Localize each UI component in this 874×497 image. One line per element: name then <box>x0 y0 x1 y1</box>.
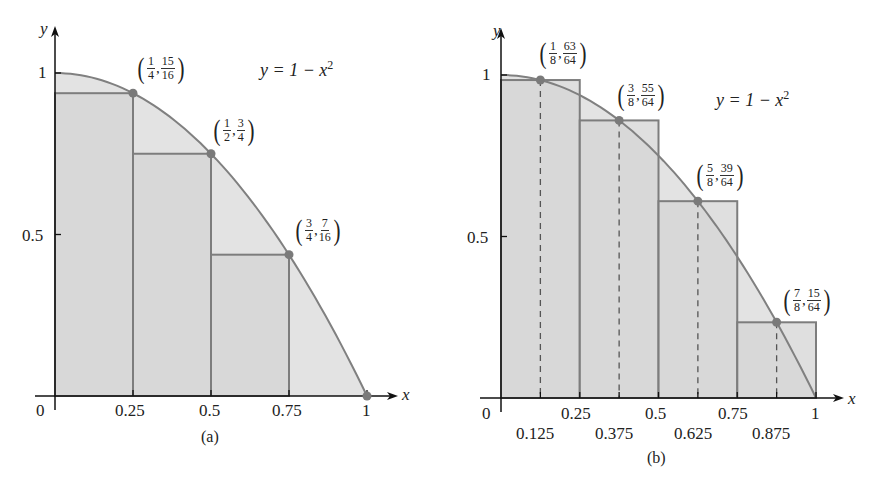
b-xtick-0.5: 0.5 <box>645 405 666 422</box>
b-xtick-1: 1 <box>811 405 820 422</box>
a-x-axis-label: x <box>402 386 410 403</box>
a-ytick-1: 1 <box>38 64 47 81</box>
b-point-label-1: (18,6364) <box>538 38 588 68</box>
a-caption: (a) <box>201 428 219 446</box>
a-xtick-0.5: 0.5 <box>199 402 220 419</box>
b-y-axis-label: y <box>493 22 501 39</box>
b-xtick-0.625: 0.625 <box>674 425 712 442</box>
a-data-point <box>207 149 216 158</box>
a-eq-lhs: y = 1 − x <box>260 60 327 80</box>
b-curve-equation: y = 1 − x2 <box>716 88 789 111</box>
a-point-label-1: (14,1516) <box>136 53 186 83</box>
a-xtick-1: 1 <box>362 402 371 419</box>
a-point-label-3: (34,716) <box>294 215 342 245</box>
a-point-label-2: (12,34) <box>212 115 256 145</box>
a-rectangle <box>55 93 133 396</box>
b-eq-exp: 2 <box>783 88 789 102</box>
a-data-point <box>285 250 294 259</box>
b-caption: (b) <box>647 449 666 467</box>
a-data-point <box>363 392 372 401</box>
b-data-point <box>693 197 702 206</box>
a-rectangle <box>133 154 211 396</box>
b-xtick-0.75: 0.75 <box>718 405 748 422</box>
a-xtick-0.25: 0.25 <box>115 402 145 419</box>
b-point-label-4: (78,1564) <box>782 285 832 315</box>
b-data-point <box>615 116 624 125</box>
b-x-axis-label: x <box>848 390 856 407</box>
b-xtick-0.875: 0.875 <box>752 425 790 442</box>
b-eq-lhs: y = 1 − x <box>716 90 783 110</box>
a-rectangle <box>211 255 289 396</box>
b-xtick-0: 0 <box>482 405 491 422</box>
b-ytick-1: 1 <box>482 66 491 83</box>
a-xtick-0.75: 0.75 <box>272 402 302 419</box>
a-ytick-0.5: 0.5 <box>22 227 43 244</box>
a-xtick-0: 0 <box>36 402 45 419</box>
a-curve-equation: y = 1 − x2 <box>260 58 333 81</box>
b-point-label-3: (58,3964) <box>695 160 745 190</box>
b-data-point <box>536 76 545 85</box>
b-xtick-0.375: 0.375 <box>595 425 633 442</box>
a-data-point <box>129 89 138 98</box>
b-point-label-2: (38,5564) <box>616 80 666 110</box>
a-eq-exp: 2 <box>327 58 333 72</box>
b-data-point <box>772 318 781 327</box>
a-y-axis-label: y <box>40 20 48 37</box>
b-xtick-0.125: 0.125 <box>516 425 554 442</box>
b-ytick-0.5: 0.5 <box>467 229 488 246</box>
b-xtick-0.25: 0.25 <box>561 405 591 422</box>
